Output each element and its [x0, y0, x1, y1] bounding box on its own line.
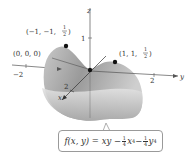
svg-text:1: 1	[144, 46, 147, 52]
y-axis-arrow	[173, 74, 178, 78]
svg-text:2: 2	[144, 53, 147, 59]
svg-text:2: 2	[63, 31, 66, 37]
function-formula: f(x, y) = xy − 14 x4 − 14 y4	[58, 130, 163, 152]
fraction-2: 14	[143, 136, 147, 147]
svg-text:): )	[68, 28, 71, 36]
point-origin	[88, 68, 92, 72]
point-label-origin: (0, 0, 0)	[13, 50, 41, 58]
svg-text:1: 1	[63, 24, 66, 30]
point-label-pos: (1, 1, 1 2 )	[119, 46, 152, 59]
y-pos-tick-label: 2	[150, 77, 154, 85]
y-axis-label: y	[179, 73, 185, 81]
surface-front	[42, 88, 143, 121]
z-axis-label: z	[86, 7, 91, 15]
x-axis-label: x	[58, 94, 62, 102]
z-tick-label: 1	[81, 35, 85, 43]
svg-text:(−1, −1,: (−1, −1,	[26, 28, 56, 36]
exponent-2: 4	[153, 138, 156, 144]
y-neg-tick-label: −2	[13, 71, 23, 79]
x-tick-label: 2	[64, 83, 68, 91]
point-pos	[113, 60, 117, 64]
fraction-1: 14	[122, 136, 126, 147]
formula-minus: −	[135, 136, 142, 146]
svg-text:(1, 1,: (1, 1,	[119, 50, 137, 58]
point-neg	[64, 44, 68, 48]
formula-lhs: f(x, y) = xy −	[64, 136, 121, 146]
svg-text:): )	[149, 50, 152, 58]
point-label-neg: (−1, −1, 1 2 )	[26, 24, 71, 37]
